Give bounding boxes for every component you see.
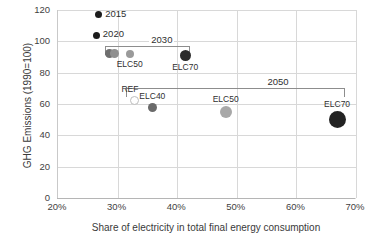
x-tick-label: 30% [97,202,137,212]
y-tick-label: 120 [16,5,50,15]
ghg-emissions-scatter-chart: 020406080100120 20%30%40%50%60%70% 20302… [0,0,376,240]
data-point-label-2050-ELC70: ELC70 [324,100,350,109]
data-point-label-2030-ELC50: ELC50 [117,60,143,69]
data-point-label-2030-ELC70: ELC70 [172,63,198,72]
gridline-horizontal [58,135,356,136]
data-point-2030-ELC70 [180,50,191,61]
data-point-2020 [93,32,100,39]
x-tick-label: 70% [335,202,375,212]
x-tick-label: 40% [156,202,196,212]
data-point-label-2015: 2015 [105,9,126,18]
gridline-horizontal [58,104,356,105]
data-point-label-2050-REF: REF [121,85,138,94]
data-point-label-2050-ELC50: ELC50 [213,95,239,104]
gridline-horizontal [58,41,356,42]
y-axis-title: GHG Emissions (1990=100) [22,16,33,196]
plot-area [57,10,355,198]
group-label-2050: 2050 [266,76,291,87]
data-point-label-2050-ELC40: ELC40 [139,92,165,101]
x-tick-label: 20% [37,202,77,212]
group-label-2030: 2030 [149,34,174,45]
gridline-vertical [356,10,357,198]
x-axis-line [57,198,355,199]
x-tick-label: 50% [216,202,256,212]
gridline-horizontal [58,73,356,74]
gridline-horizontal [58,167,356,168]
gridline-vertical [177,10,178,198]
gridline-horizontal [58,10,356,11]
data-point-2050-ELC40 [148,103,157,112]
data-point-label-2020: 2020 [103,29,124,38]
gridline-vertical [296,10,297,198]
gridline-vertical [237,10,238,198]
x-axis-title: Share of electricity in total final ener… [57,222,355,233]
data-point-2030-ELC50 [126,50,134,58]
x-tick-label: 60% [275,202,315,212]
data-point-2050-ELC70 [329,111,346,128]
data-point-2050-ELC50 [220,106,232,118]
